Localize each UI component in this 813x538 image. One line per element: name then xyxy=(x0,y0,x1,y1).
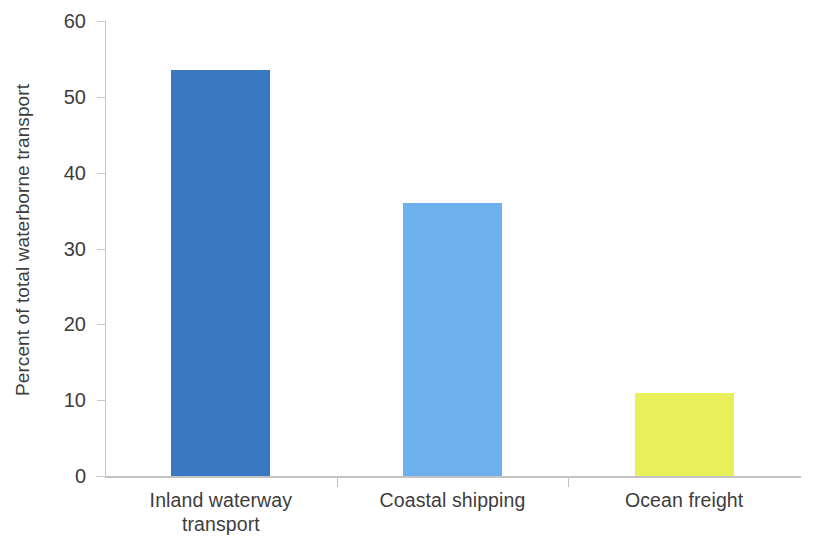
x-axis-line xyxy=(105,476,801,478)
y-tick-mark xyxy=(97,400,105,401)
category-label-line2: transport xyxy=(105,513,337,537)
category-label: Inland waterwaytransport xyxy=(105,489,337,537)
y-tick-label: 40 xyxy=(26,163,86,183)
y-tick-label: 20 xyxy=(26,314,86,334)
y-tick-label: 0 xyxy=(26,466,86,486)
category-label-line1: Inland waterway xyxy=(105,489,337,513)
y-tick-mark xyxy=(97,97,105,98)
plot-area xyxy=(105,21,800,476)
y-tick-label: 10 xyxy=(26,390,86,410)
y-tick-label: 60 xyxy=(26,11,86,31)
x-axis-separator xyxy=(337,477,338,487)
y-tick-mark xyxy=(97,249,105,250)
y-tick-mark xyxy=(97,324,105,325)
category-label: Coastal shipping xyxy=(337,489,569,513)
y-tick-mark xyxy=(97,173,105,174)
category-label: Ocean freight xyxy=(568,489,800,513)
y-tick-mark xyxy=(97,21,105,22)
y-tick-label: 30 xyxy=(26,239,86,259)
bar-1 xyxy=(171,70,270,476)
category-label-line1: Coastal shipping xyxy=(337,489,569,513)
y-tick-label: 50 xyxy=(26,87,86,107)
bar-2 xyxy=(403,203,502,476)
x-axis-separator xyxy=(568,477,569,487)
bar-chart: Percent of total waterborne transport 01… xyxy=(0,0,813,538)
category-label-line1: Ocean freight xyxy=(568,489,800,513)
y-tick-mark xyxy=(96,476,105,477)
bar-3 xyxy=(635,393,734,476)
